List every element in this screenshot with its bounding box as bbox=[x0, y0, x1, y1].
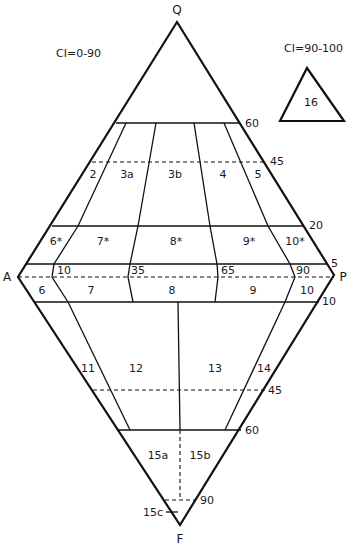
tick-f45: 45 bbox=[268, 384, 282, 397]
field-6-star: 6* bbox=[50, 235, 63, 248]
field-3b: 3b bbox=[168, 168, 182, 181]
divider-65 bbox=[194, 123, 218, 302]
ci-main-label: CI=0-90 bbox=[56, 47, 101, 60]
field-15a: 15a bbox=[148, 449, 169, 462]
tick-p65: 65 bbox=[221, 264, 235, 277]
field-10-star: 10* bbox=[285, 235, 305, 248]
tick-f60: 60 bbox=[245, 424, 259, 437]
qapf-diagram: Q A P F CI=0-90 CI=90-100 16 60 45 20 5 … bbox=[0, 0, 352, 546]
field-9: 9 bbox=[250, 284, 257, 297]
vertex-a-label: A bbox=[3, 270, 12, 284]
tick-q60: 60 bbox=[245, 117, 259, 130]
ci-inset-label: CI=90-100 bbox=[284, 42, 343, 55]
field-12: 12 bbox=[129, 362, 143, 375]
field-8: 8 bbox=[169, 284, 176, 297]
divider-12-13 bbox=[178, 302, 180, 430]
tick-p35: 35 bbox=[131, 264, 145, 277]
tick-q5: 5 bbox=[331, 257, 338, 270]
field-11: 11 bbox=[81, 362, 95, 375]
vertex-q-label: Q bbox=[172, 3, 181, 17]
field-4: 4 bbox=[220, 168, 227, 181]
field-16-label: 16 bbox=[304, 96, 318, 109]
field-3a: 3a bbox=[120, 168, 134, 181]
field-7-star: 7* bbox=[97, 235, 110, 248]
field-7: 7 bbox=[88, 284, 95, 297]
field-5: 5 bbox=[255, 168, 262, 181]
vertex-p-label: P bbox=[339, 270, 346, 284]
tick-q45: 45 bbox=[270, 155, 284, 168]
inset-triangle bbox=[280, 68, 344, 121]
field-14: 14 bbox=[257, 362, 271, 375]
field-10: 10 bbox=[300, 284, 314, 297]
tick-q20: 20 bbox=[309, 219, 323, 232]
field-15b: 15b bbox=[190, 449, 211, 462]
tick-p10: 10 bbox=[57, 264, 71, 277]
divider-13-14 bbox=[225, 302, 285, 430]
field-2: 2 bbox=[90, 168, 97, 181]
vertex-f-label: F bbox=[177, 532, 184, 546]
tick-f90: 90 bbox=[200, 494, 214, 507]
field-15c: 15c bbox=[143, 506, 163, 519]
tick-p90: 90 bbox=[296, 264, 310, 277]
tick-f10: 10 bbox=[322, 295, 336, 308]
field-8-star: 8* bbox=[170, 235, 183, 248]
field-9-star: 9* bbox=[243, 235, 256, 248]
field-6: 6 bbox=[39, 284, 46, 297]
field-13: 13 bbox=[208, 362, 222, 375]
